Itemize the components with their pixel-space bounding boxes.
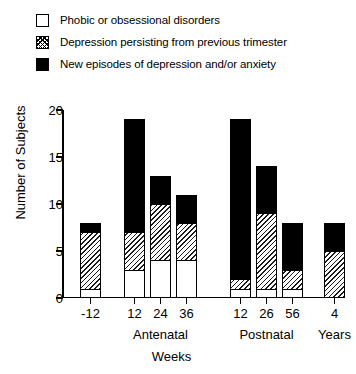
bar-segment-hatch (80, 232, 101, 288)
bar-stack[interactable] (282, 223, 303, 298)
bar-stack[interactable] (230, 119, 251, 298)
bar-segment-black (230, 119, 251, 279)
y-axis-tick-label-wrap: 5 (26, 251, 63, 252)
y-axis-title: Number of Subjects (13, 83, 28, 243)
x-axis-tick-mark (160, 298, 161, 304)
y-axis-tick-label: 15 (37, 151, 63, 164)
bar-segment-black (176, 195, 197, 223)
x-axis-group-label: Antenatal (111, 328, 211, 342)
bar-segment-hatch (124, 232, 145, 270)
x-axis-tick-mark (240, 298, 241, 304)
x-axis-tick-mark (186, 298, 187, 304)
bar-segment-white (230, 289, 251, 298)
y-axis-tick-label: 10 (37, 198, 63, 211)
bar-segment-hatch (230, 279, 251, 288)
bar-segment-white (150, 260, 171, 298)
x-axis-tick-label: -12 (71, 307, 111, 321)
bar-segment-white (176, 260, 197, 298)
bar-segment-hatch (256, 213, 277, 288)
bar-segment-black (80, 223, 101, 232)
bar-segment-black (150, 176, 171, 204)
x-axis-tick-mark (266, 298, 267, 304)
bar-series-container (62, 110, 334, 298)
bar-segment-hatch (282, 270, 303, 289)
bar-segment-hatch (324, 251, 345, 298)
bar-segment-hatch (176, 223, 197, 261)
x-axis-tick-mark (134, 298, 135, 304)
bar-segment-black (124, 119, 145, 232)
y-axis-tick-label: 20 (37, 104, 63, 117)
bar-segment-black (324, 223, 345, 251)
bar-segment-white (256, 289, 277, 298)
bar-segment-hatch (150, 204, 171, 260)
x-axis-tick-mark (90, 298, 91, 304)
y-axis-tick-label: 5 (37, 245, 63, 258)
bar-stack[interactable] (324, 223, 345, 298)
bar-segment-white (282, 289, 303, 298)
y-axis-tick-label-wrap: 15 (26, 157, 63, 158)
y-axis-tick-label-wrap: 10 (26, 204, 63, 205)
x-axis-tick-mark (334, 298, 335, 304)
bar-stack[interactable] (150, 176, 171, 298)
x-axis-tick-label: 4 (315, 307, 355, 321)
x-axis-title: Weeks (0, 349, 343, 364)
bar-stack[interactable] (80, 223, 101, 298)
y-axis-tick-label-wrap: 20 (26, 110, 63, 111)
x-axis-tick-mark (292, 298, 293, 304)
x-axis-tick-label: 56 (273, 307, 313, 321)
x-axis-tick-label: 36 (167, 307, 207, 321)
bar-stack[interactable] (176, 195, 197, 298)
bar-segment-white (80, 289, 101, 298)
bar-stack[interactable] (256, 166, 277, 298)
y-axis-tick-label: 0 (37, 292, 63, 305)
bar-segment-black (282, 223, 303, 270)
bar-segment-white (124, 270, 145, 298)
y-axis-tick-label-wrap: 0 (26, 298, 63, 299)
bar-stack[interactable] (124, 119, 145, 298)
x-axis-group-label: Years (285, 328, 356, 342)
bar-segment-black (256, 166, 277, 213)
